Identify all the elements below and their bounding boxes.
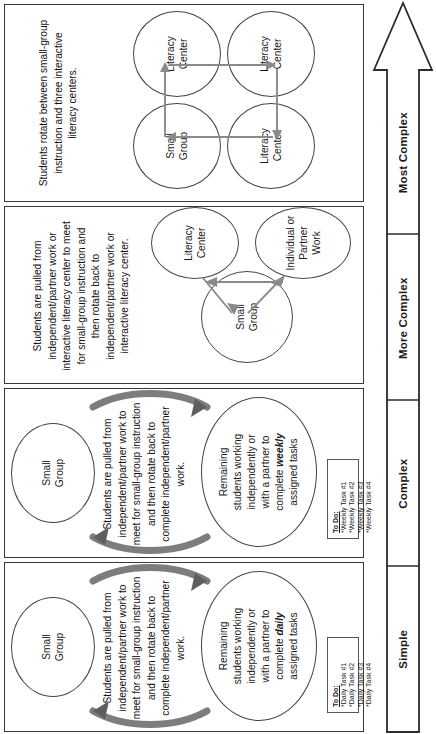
diagram-root: Students are pulled from independent/par… [0, 0, 436, 734]
todo-item: *Weekly Task #1 [340, 465, 348, 533]
todo-item: *Daily Task #1 [340, 643, 348, 707]
todo-box-daily: To Do: *Daily Task #1 *Daily Task #2 *Da… [327, 637, 359, 713]
panel-more-complex: Students are pulled from independent/par… [4, 206, 364, 384]
todo-box-weekly: To Do: *Weekly Task #1 *Weekly Task #2 *… [327, 459, 359, 539]
complexity-arrow: Simple Complex More Complex Most Complex [372, 0, 434, 734]
todo-item: *Daily Task #2 [348, 643, 356, 707]
todo-title: To Do: [332, 643, 339, 707]
complexity-arrow-labels: Simple Complex More Complex Most Complex [386, 70, 420, 732]
diagram-canvas: Students are pulled from independent/par… [0, 0, 436, 734]
arrow-label-simple: Simple [386, 567, 420, 733]
panel-simple: Students are pulled from independent/par… [4, 562, 364, 732]
todo-item: *Weekly Task #2 [348, 465, 356, 533]
todo-item: *Daily Task #3 [357, 643, 365, 707]
rotation-arrows-triangle [5, 205, 365, 383]
arrow-label-complex: Complex [386, 401, 420, 567]
arrow-label-most-complex: Most Complex [386, 70, 420, 236]
arrow-label-more-complex: More Complex [386, 236, 420, 402]
rotation-arrows-rectangular [5, 3, 365, 201]
todo-title: To Do: [332, 465, 339, 533]
rotation-arrows-curved [5, 387, 365, 557]
panel-complex: Students are pulled from independent/par… [4, 388, 364, 558]
rotation-arrows-curved [5, 561, 365, 731]
todo-item: *Weekly Task #3 [357, 465, 365, 533]
panel-most-complex: Students rotate between small-group inst… [4, 4, 364, 202]
